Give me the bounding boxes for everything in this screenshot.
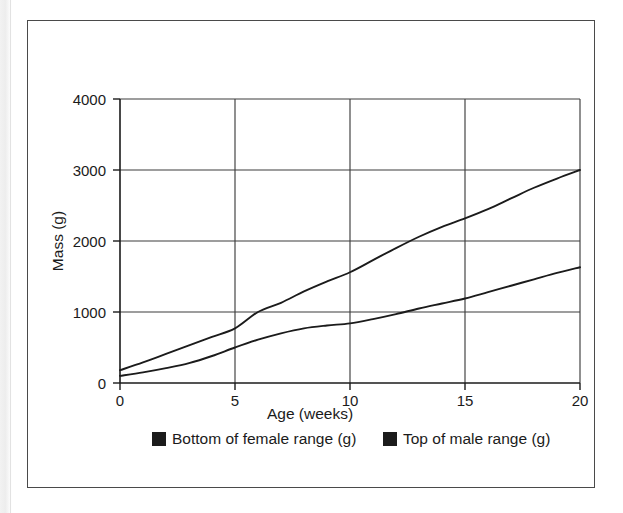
chart-legend: Bottom of female range (g) Top of male r… (152, 430, 550, 447)
y-tick-label-3000: 3000 (73, 162, 106, 179)
x-tick-label-0: 0 (116, 392, 124, 409)
y-tick-label-1000: 1000 (73, 304, 106, 321)
figure-root: 4000 3000 2000 1000 0 0 5 10 15 20 Age (… (0, 0, 623, 513)
y-axis-tick-labels: 4000 3000 2000 1000 0 (73, 91, 106, 392)
legend-swatch-bottom-of-female-range (152, 432, 166, 446)
x-tick-label-15: 15 (457, 392, 474, 409)
x-axis-title: Age (weeks) (267, 405, 353, 422)
line-chart: 4000 3000 2000 1000 0 0 5 10 15 20 Age (… (0, 0, 623, 513)
y-tick-label-4000: 4000 (73, 91, 106, 108)
x-tick-label-5: 5 (231, 392, 239, 409)
y-axis-title: Mass (g) (49, 211, 66, 271)
y-axis-ticks (113, 99, 120, 383)
legend-label-bottom-of-female-range: Bottom of female range (g) (172, 430, 356, 447)
legend-swatch-top-of-male-range (383, 432, 397, 446)
x-tick-label-20: 20 (572, 392, 589, 409)
y-tick-label-2000: 2000 (73, 233, 106, 250)
y-tick-label-0: 0 (98, 375, 106, 392)
legend-label-top-of-male-range: Top of male range (g) (403, 430, 550, 447)
x-axis-ticks (120, 383, 580, 390)
